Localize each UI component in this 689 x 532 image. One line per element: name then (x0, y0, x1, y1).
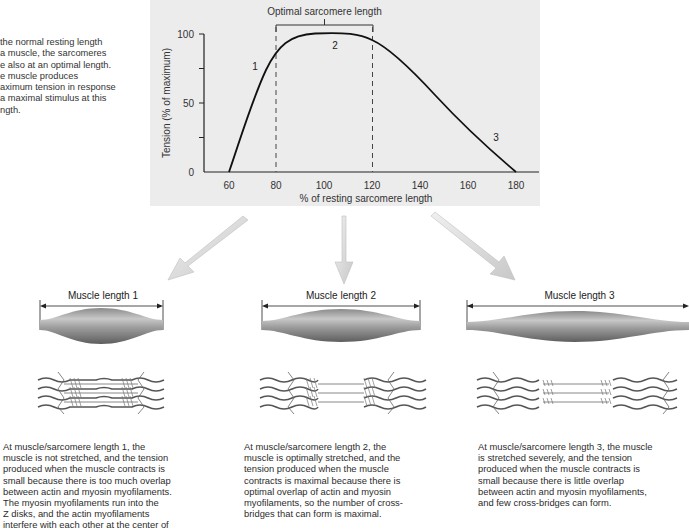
sarcomere-1 (38, 372, 164, 414)
sarcomere-2 (260, 372, 426, 414)
muscle-shape-2 (262, 309, 420, 342)
caption-length-1: At muscle/sarcomere length 1, the muscle… (3, 441, 233, 531)
sarcomere-3 (477, 372, 677, 414)
muscle-illustration-3 (463, 300, 689, 420)
muscle-shape-1 (40, 308, 163, 344)
caption-length-2: At muscle/sarcomere length 2, the muscle… (244, 441, 459, 519)
muscle-illustration-1 (36, 300, 166, 420)
arrow-to-length-2-icon (335, 216, 353, 284)
muscle-shape-3 (467, 311, 689, 342)
muscle-illustration-2 (258, 300, 428, 420)
pointer-arrows (0, 0, 689, 300)
arrow-to-length-3-icon (431, 212, 515, 280)
caption-length-3: At muscle/sarcomere length 3, the muscle… (478, 441, 689, 508)
arrow-to-length-1-icon (168, 216, 248, 280)
